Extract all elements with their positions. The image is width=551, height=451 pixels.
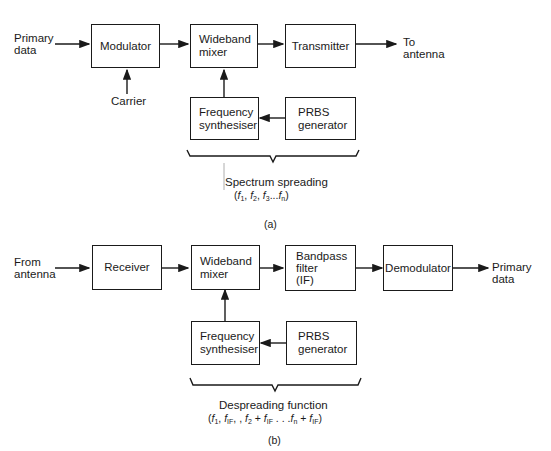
to-antenna-label: To antenna xyxy=(403,36,445,60)
synth-label: Frequency synthesiser xyxy=(199,106,257,132)
spectrum-spreading-formula: (f1, f2, f3...fn) xyxy=(234,189,289,205)
mixer-label-b: Wideband mixer xyxy=(200,255,252,281)
despreading-function-title: Despreading function xyxy=(219,399,328,411)
wideband-mixer-block-a: Wideband mixer xyxy=(190,24,258,68)
prbs-generator-block-a: PRBS generator xyxy=(285,97,356,140)
synth-label-b: Frequency synthesiser xyxy=(200,330,258,356)
modulator-block: Modulator xyxy=(91,24,160,68)
primary-data-input-label: Primary data xyxy=(14,32,54,56)
from-antenna-label: From antenna xyxy=(14,256,56,280)
prbs-label: PRBS generator xyxy=(298,106,347,132)
bandpass-filter-block: Bandpass filter (IF) xyxy=(285,245,356,291)
prbs-label-b: PRBS generator xyxy=(298,330,347,356)
caption-b: (b) xyxy=(268,434,281,446)
receiver-label: Receiver xyxy=(104,261,149,274)
frequency-synthesiser-block-a: Frequency synthesiser xyxy=(190,97,259,140)
transmitter-label: Transmitter xyxy=(292,40,350,53)
receiver-block: Receiver xyxy=(92,245,162,290)
demodulator-label: Demodulator xyxy=(385,262,451,275)
bandpass-label: Bandpass filter (IF) xyxy=(296,250,347,286)
primary-data-output-label: Primary data xyxy=(492,261,532,285)
demodulator-block: Demodulator xyxy=(383,245,453,291)
spectrum-spreading-title: Spectrum spreading xyxy=(225,176,328,188)
mixer-label: Wideband mixer xyxy=(199,33,251,59)
prbs-generator-block-b: PRBS generator xyxy=(286,321,357,365)
transmitter-block: Transmitter xyxy=(285,24,356,68)
frequency-synthesiser-block-b: Frequency synthesiser xyxy=(191,321,260,365)
despreading-function-formula: (f1, fIF, , f2 + fIF . . .fn + fIF) xyxy=(208,412,322,428)
wideband-mixer-block-b: Wideband mixer xyxy=(191,245,260,290)
carrier-label: Carrier xyxy=(111,95,146,107)
caption-a: (a) xyxy=(264,218,277,230)
modulator-label: Modulator xyxy=(100,40,151,53)
